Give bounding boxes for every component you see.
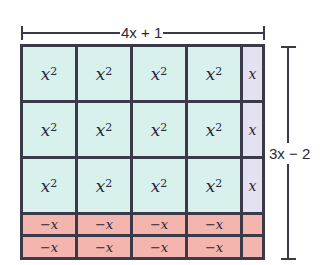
x-squared-tile: x2 <box>133 47 185 100</box>
x-tile: x <box>243 159 262 212</box>
x-squared-tile: x2 <box>78 47 130 100</box>
negative-x-tile: −x <box>78 215 130 234</box>
height-bracket-bottom-tick <box>281 258 296 260</box>
x-tile: x <box>243 103 262 156</box>
x-squared-tile: x2 <box>23 159 75 212</box>
x-squared-tile: x2 <box>78 159 130 212</box>
negative-x-tile: −x <box>188 237 240 257</box>
x-squared-tile: x2 <box>23 103 75 156</box>
width-bracket-right-tick <box>263 26 265 40</box>
negative-x-tile: −x <box>133 215 185 234</box>
x-squared-tile: x2 <box>188 47 240 100</box>
negative-x-tile: −x <box>23 237 75 257</box>
negative-unit-tile <box>243 237 262 257</box>
x-squared-tile: x2 <box>188 159 240 212</box>
width-bracket-left-tick <box>21 26 23 40</box>
x-tile: x <box>243 47 262 100</box>
height-label-text: 3x − 2 <box>269 145 310 162</box>
height-label: 3x − 2 <box>269 143 310 164</box>
width-label: 4x + 1 <box>120 24 163 41</box>
x-squared-tile: x2 <box>78 103 130 156</box>
x-squared-tile: x2 <box>188 103 240 156</box>
height-bracket-top-tick <box>281 46 296 48</box>
width-label-text: 4x + 1 <box>121 24 162 41</box>
negative-x-tile: −x <box>78 237 130 257</box>
negative-x-tile: −x <box>133 237 185 257</box>
tile-grid: x2 x2 x2 x2 x x2 x2 x2 x2 x x2 x2 x2 x2 … <box>20 44 265 260</box>
negative-x-tile: −x <box>23 215 75 234</box>
negative-unit-tile <box>243 215 262 234</box>
x-squared-tile: x2 <box>133 103 185 156</box>
x-squared-tile: x2 <box>23 47 75 100</box>
x-squared-tile: x2 <box>133 159 185 212</box>
negative-x-tile: −x <box>188 215 240 234</box>
